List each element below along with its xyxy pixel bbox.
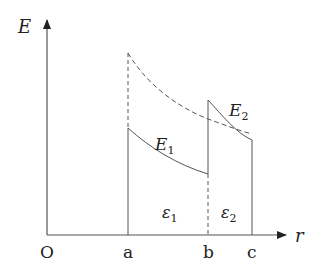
e2-label: E2	[228, 100, 248, 123]
field-diagram: E r O a b c E1 E2 ε1 ε2	[0, 0, 327, 270]
e1-label: E1	[154, 134, 174, 157]
epsilon1-label: ε1	[162, 203, 178, 225]
reference-curve-dashed	[128, 53, 252, 134]
tick-label-c: c	[247, 242, 257, 262]
origin-label: O	[40, 242, 54, 262]
y-axis-label: E	[17, 16, 31, 37]
epsilon2-label: ε2	[221, 203, 237, 225]
x-axis-label: r	[295, 225, 305, 246]
tick-label-a: a	[123, 242, 133, 262]
tick-label-b: b	[203, 242, 214, 262]
